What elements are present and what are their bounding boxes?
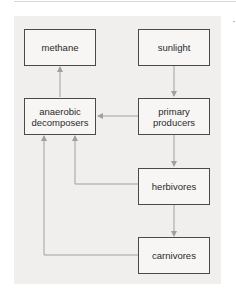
node-sunlight: sunlight bbox=[138, 29, 210, 66]
node-primary-producers: primary producers bbox=[138, 98, 210, 135]
node-carnivores: carnivores bbox=[138, 237, 210, 274]
arrow-herbivores-to-decomposers bbox=[75, 136, 138, 184]
node-label: anaerobic decomposers bbox=[30, 106, 90, 128]
node-label: carnivores bbox=[152, 250, 196, 261]
node-label: herbivores bbox=[152, 181, 196, 192]
node-methane: methane bbox=[24, 29, 96, 66]
node-label: primary producers bbox=[149, 106, 199, 128]
node-label: methane bbox=[42, 42, 79, 53]
node-label: sunlight bbox=[158, 42, 191, 53]
node-herbivores: herbivores bbox=[138, 168, 210, 205]
arrow-carnivores-to-decomposers bbox=[44, 136, 138, 255]
node-anaerobic-decomposers: anaerobic decomposers bbox=[24, 98, 96, 135]
